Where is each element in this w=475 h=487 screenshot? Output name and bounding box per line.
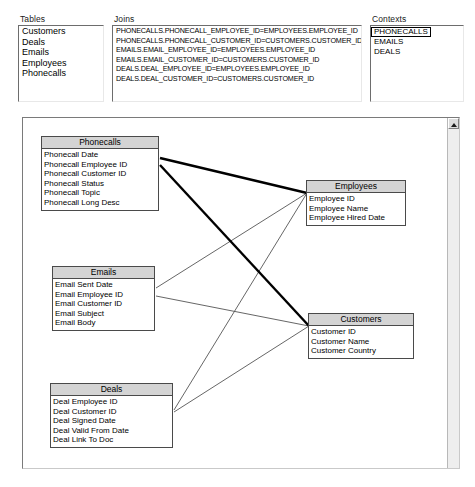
joins-panel: Joins PHONECALLS.PHONECALL_EMPLOYEE_ID=E…: [112, 14, 362, 102]
entity-field: Phonecall Employee ID: [42, 160, 158, 170]
joins-list-item[interactable]: EMAILS.EMAIL_CUSTOMER_ID=CUSTOMERS.CUSTO…: [113, 55, 361, 65]
contexts-listbox[interactable]: PHONECALLS EMAILS DEALS: [370, 25, 464, 102]
entity-field: Deal Customer ID: [51, 407, 172, 417]
contexts-list-item[interactable]: EMAILS: [371, 37, 463, 47]
entity-field: Email Customer ID: [53, 299, 154, 309]
entity-field: Customer ID: [309, 327, 413, 337]
joins-list-item[interactable]: EMAILS.EMAIL_EMPLOYEE_ID=EMPLOYEES.EMPLO…: [113, 45, 361, 55]
entity-field: Deal Link To Doc: [51, 435, 172, 445]
entity-field: Phonecall Customer ID: [42, 169, 158, 179]
entity-field: Phonecall Topic: [42, 188, 158, 198]
entity-field: Email Subject: [53, 309, 154, 319]
joins-list-item[interactable]: DEALS.DEAL_CUSTOMER_ID=CUSTOMERS.CUSTOME…: [113, 74, 361, 84]
entity-field: Email Body: [53, 318, 154, 328]
contexts-panel: Contexts PHONECALLS EMAILS DEALS: [370, 14, 464, 102]
joins-list-item[interactable]: PHONECALLS.PHONECALL_EMPLOYEE_ID=EMPLOYE…: [113, 26, 361, 36]
entity-field: Phonecall Date: [42, 150, 158, 160]
entity-title: Customers: [309, 314, 413, 326]
entity-fields: Customer ID Customer Name Customer Count…: [309, 326, 413, 358]
canvas-vertical-scrollbar[interactable]: [447, 118, 459, 468]
entity-field: Email Sent Date: [53, 280, 154, 290]
top-panels: Tables Customers Deals Emails Employees …: [18, 14, 464, 102]
entity-fields: Employee ID Employee Name Employee Hired…: [307, 193, 405, 225]
tables-listbox[interactable]: Customers Deals Emails Employees Phoneca…: [18, 25, 104, 102]
scroll-up-button[interactable]: [448, 118, 459, 129]
entity-field: Email Employee ID: [53, 290, 154, 300]
entity-field: Deal Signed Date: [51, 416, 172, 426]
entity-customers[interactable]: Customers Customer ID Customer Name Cust…: [308, 313, 414, 359]
joins-list-item[interactable]: DEALS.DEAL_EMPLOYEE_ID=EMPLOYEES.EMPLOYE…: [113, 64, 361, 74]
entity-fields: Deal Employee ID Deal Customer ID Deal S…: [51, 396, 172, 447]
contexts-panel-header: Contexts: [370, 14, 464, 25]
contexts-list-item[interactable]: DEALS: [371, 47, 463, 57]
triangle-up-icon: [451, 123, 457, 127]
entity-employees[interactable]: Employees Employee ID Employee Name Empl…: [306, 180, 406, 226]
entity-title: Phonecalls: [42, 137, 158, 149]
entity-deals[interactable]: Deals Deal Employee ID Deal Customer ID …: [50, 383, 173, 448]
tables-list-item[interactable]: Emails: [19, 47, 103, 58]
entity-field: Deal Valid From Date: [51, 426, 172, 436]
joins-panel-header: Joins: [112, 14, 362, 25]
entity-field: Employee Hired Date: [307, 213, 405, 223]
tables-list-item[interactable]: Employees: [19, 58, 103, 69]
schema-canvas[interactable]: Phonecalls Phonecall Date Phonecall Empl…: [23, 118, 448, 468]
entity-field: Employee ID: [307, 194, 405, 204]
entity-emails[interactable]: Emails Email Sent Date Email Employee ID…: [52, 266, 155, 331]
entity-field: Customer Name: [309, 337, 413, 347]
entity-phonecalls[interactable]: Phonecalls Phonecall Date Phonecall Empl…: [41, 136, 159, 211]
entity-title: Emails: [53, 267, 154, 279]
entity-field: Phonecall Long Desc: [42, 198, 158, 208]
tables-list-item[interactable]: Customers: [19, 26, 103, 37]
entity-fields: Email Sent Date Email Employee ID Email …: [53, 279, 154, 330]
tables-list-item[interactable]: Phonecalls: [19, 68, 103, 79]
joins-listbox[interactable]: PHONECALLS.PHONECALL_EMPLOYEE_ID=EMPLOYE…: [112, 25, 362, 102]
schema-canvas-frame: Phonecalls Phonecall Date Phonecall Empl…: [22, 117, 460, 469]
entity-title: Deals: [51, 384, 172, 396]
entity-field: Employee Name: [307, 204, 405, 214]
entity-field: Phonecall Status: [42, 179, 158, 189]
tables-list-item[interactable]: Deals: [19, 37, 103, 48]
entity-title: Employees: [307, 181, 405, 193]
contexts-list-item-selected[interactable]: PHONECALLS: [371, 27, 431, 37]
tables-panel-header: Tables: [18, 14, 104, 25]
entity-field: Customer Country: [309, 346, 413, 356]
join-line-deals-customers: [174, 326, 309, 412]
entity-field: Deal Employee ID: [51, 397, 172, 407]
tables-panel: Tables Customers Deals Emails Employees …: [18, 14, 104, 102]
entity-fields: Phonecall Date Phonecall Employee ID Pho…: [42, 149, 158, 210]
joins-list-item[interactable]: PHONECALLS.PHONECALL_CUSTOMER_ID=CUSTOME…: [113, 36, 361, 46]
